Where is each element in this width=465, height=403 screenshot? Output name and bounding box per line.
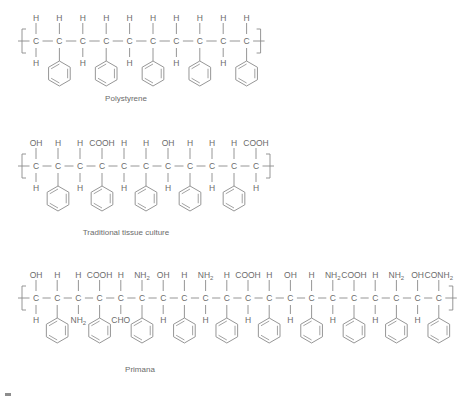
substituent-top-cooh: COOH — [341, 270, 367, 280]
carbon-atom: C — [121, 161, 127, 171]
carbon-atom: C — [436, 293, 442, 303]
substituent-bottom-nh2: NH2 — [71, 315, 87, 326]
substituent-top-cooh: COOH — [243, 138, 269, 148]
phenyl-ring — [142, 61, 164, 86]
phenyl-ring — [47, 186, 69, 211]
carbon-atom: C — [99, 161, 105, 171]
substituent-top-h: H — [77, 138, 83, 148]
structure-label-polystyrene: Polystyrene — [105, 94, 147, 103]
substituent-bottom-h: H — [245, 315, 251, 325]
substituent-top-oh: OH — [284, 270, 297, 280]
structure-label-traditional-tissue-culture: Traditional tissue culture — [83, 228, 170, 237]
carbon-atom: C — [118, 293, 124, 303]
carbon-atom: C — [139, 293, 145, 303]
phenyl-ring — [89, 318, 111, 343]
substituent-top-h: H — [372, 270, 378, 280]
phenyl-ring — [258, 318, 280, 343]
diagram-canvas: CCCCCCCCCCHHHHHHHHHHHHHHHPolystyreneCCCC… — [0, 0, 465, 403]
substituent-top-h: H — [118, 270, 124, 280]
carbon-atom: C — [220, 36, 226, 46]
substituent-top-h: H — [244, 13, 250, 23]
substituent-top-h: H — [266, 270, 272, 280]
substituent-top-h: H — [224, 270, 230, 280]
substituent-bottom-h: H — [160, 315, 166, 325]
substituent-bottom-h: H — [77, 183, 83, 193]
structure-polystyrene: CCCCCCCCCCHHHHHHHHHHHHHHHPolystyrene — [18, 13, 265, 103]
carbon-atom: C — [127, 36, 133, 46]
carbon-atom: C — [143, 161, 149, 171]
carbon-atom: C — [173, 36, 179, 46]
carbon-atom: C — [266, 293, 272, 303]
substituent-top-h: H — [173, 13, 179, 23]
substituent-top-h: H — [80, 13, 86, 23]
substituent-bottom-h: H — [33, 58, 39, 68]
polymer-structure-diagram: CCCCCCCCCCHHHHHHHHHHHHHHHPolystyreneCCCC… — [0, 0, 465, 403]
substituent-top-h: H — [309, 270, 315, 280]
carbon-atom: C — [187, 161, 193, 171]
carbon-atom: C — [253, 161, 259, 171]
phenyl-ring — [343, 318, 365, 343]
carbon-atom: C — [351, 293, 357, 303]
carbon-atom: C — [372, 293, 378, 303]
carbon-atom: C — [197, 36, 203, 46]
carbon-atom: C — [245, 293, 251, 303]
substituent-top-cooh: COOH — [87, 270, 113, 280]
substituent-bottom-h: H — [287, 315, 293, 325]
substituent-top-nh2: NH2 — [325, 270, 341, 281]
phenyl-ring — [91, 186, 113, 211]
phenyl-ring — [216, 318, 238, 343]
carbon-atom: C — [231, 161, 237, 171]
substituent-bottom-h: H — [330, 315, 336, 325]
substituent-top-cooh: COOH — [89, 138, 115, 148]
carbon-atom: C — [160, 293, 166, 303]
substituent-top-h: H — [209, 138, 215, 148]
carbon-atom: C — [287, 293, 293, 303]
substituent-top-conh2: CONH2 — [425, 270, 454, 281]
phenyl-ring — [386, 318, 408, 343]
substituent-bottom-h: H — [33, 315, 39, 325]
phenyl-ring — [301, 318, 323, 343]
substituent-bottom-h: H — [372, 315, 378, 325]
substituent-bottom-h: H — [209, 183, 215, 193]
substituent-top-oh: OH — [411, 270, 424, 280]
phenyl-ring — [236, 61, 258, 86]
carbon-atom: C — [33, 161, 39, 171]
structure-traditional-tissue-culture: CCCCCCCCCCCOHHHCOOHHHOHHHHCOOHHHHHHHTrad… — [18, 138, 274, 237]
substituent-top-h: H — [181, 270, 187, 280]
substituent-bottom-h: H — [173, 58, 179, 68]
substituent-top-nh2: NH2 — [389, 270, 405, 281]
carbon-atom: C — [77, 161, 83, 171]
substituent-top-h: H — [54, 270, 60, 280]
carbon-atom: C — [165, 161, 171, 171]
substituent-bottom-h: H — [415, 315, 421, 325]
carbon-atom: C — [33, 293, 39, 303]
substituent-top-cooh: COOH — [235, 270, 261, 280]
carbon-atom: C — [54, 293, 60, 303]
phenyl-ring — [428, 318, 450, 343]
carbon-atom: C — [103, 36, 109, 46]
substituent-top-h: H — [150, 13, 156, 23]
phenyl-ring — [95, 61, 117, 86]
structure-label-primana: Primana — [125, 365, 155, 374]
carbon-atom: C — [75, 293, 81, 303]
carbon-atom: C — [55, 161, 61, 171]
phenyl-ring — [223, 186, 245, 211]
phenyl-ring — [131, 318, 153, 343]
substituent-bottom-h: H — [127, 58, 133, 68]
carbon-atom: C — [150, 36, 156, 46]
substituent-top-oh: OH — [162, 138, 175, 148]
substituent-top-h: H — [121, 138, 127, 148]
carbon-atom: C — [203, 293, 209, 303]
carbon-atom: C — [97, 293, 103, 303]
phenyl-ring — [179, 186, 201, 211]
substituent-top-oh: OH — [157, 270, 170, 280]
substituent-top-h: H — [103, 13, 109, 23]
substituent-top-h: H — [220, 13, 226, 23]
substituent-top-h: H — [127, 13, 133, 23]
phenyl-ring — [46, 318, 68, 343]
substituent-top-h: H — [33, 13, 39, 23]
carbon-atom: C — [393, 293, 399, 303]
substituent-top-h: H — [75, 270, 81, 280]
substituent-bottom-h: H — [220, 58, 226, 68]
phenyl-ring — [189, 61, 211, 86]
